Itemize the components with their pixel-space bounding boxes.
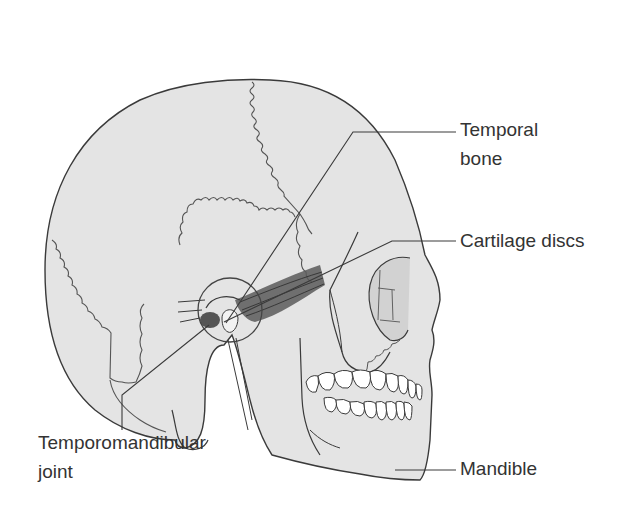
label-temporal-bone: Temporal bone [460, 119, 538, 170]
label-temporomandibular-joint: Temporomandibular joint [38, 432, 206, 483]
label-mandible: Mandible [460, 458, 537, 480]
articular-disc [200, 312, 220, 328]
label-temporal-bone-line2: bone [460, 148, 538, 170]
label-tmj-line1: Temporomandibular [38, 432, 206, 454]
label-tmj-line2: joint [38, 461, 206, 483]
label-temporal-bone-line1: Temporal [460, 119, 538, 141]
label-cartilage-discs: Cartilage discs [460, 230, 585, 252]
